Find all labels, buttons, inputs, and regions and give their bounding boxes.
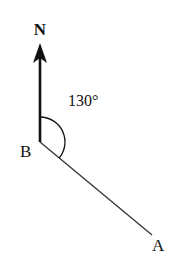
point-b-label: B (20, 142, 31, 161)
point-a-label: A (152, 236, 165, 255)
angle-label: 130° (68, 92, 98, 109)
north-label: N (34, 20, 47, 39)
segment-ba (40, 142, 152, 235)
bearing-diagram: N 130° B A (0, 0, 180, 258)
